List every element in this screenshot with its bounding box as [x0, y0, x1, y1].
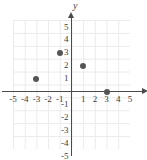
y-tick-label: -5	[56, 152, 69, 160]
x-tick-label: -5	[7, 95, 19, 104]
y-tick-label: 4	[56, 35, 69, 44]
x-tick-label: -3	[30, 95, 42, 104]
x-tick-label: 3	[101, 95, 113, 104]
y-tick-label: 1	[56, 74, 69, 83]
y-tick-label: -4	[56, 139, 69, 148]
x-tick-label: 2	[89, 95, 101, 104]
y-axis-arrow-icon	[68, 12, 74, 18]
y-tick-label: -3	[56, 126, 69, 135]
y-axis-label: y	[73, 1, 77, 11]
coordinate-plane: y -5-4-3-2-112345 54321-1-2-3-4-5	[0, 0, 147, 159]
y-tick-label: 2	[56, 61, 69, 70]
x-tick-label: 4	[112, 95, 124, 104]
x-tick-label: -4	[19, 95, 31, 104]
x-tick-label: 1	[77, 95, 89, 104]
y-tick-label: -2	[56, 113, 69, 122]
data-point	[104, 89, 110, 95]
y-tick-label: -1	[56, 100, 69, 109]
y-tick-label: 5	[56, 23, 69, 32]
x-tick-label: 5	[124, 95, 136, 104]
x-axis	[2, 91, 145, 92]
x-tick-label: -2	[42, 95, 54, 104]
x-axis-arrow-icon	[142, 88, 147, 94]
y-axis	[71, 14, 72, 156]
data-point	[80, 63, 86, 69]
data-point	[57, 50, 63, 56]
